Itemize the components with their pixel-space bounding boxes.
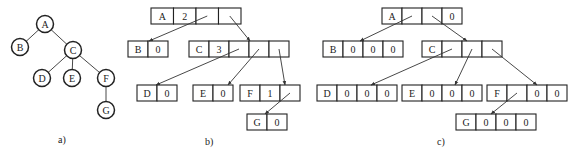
tree-node-label: A: [41, 19, 49, 30]
panel-b-variable-degree-list: A2B0C3D0E0F1G0 b): [128, 8, 300, 148]
node-data-label: G: [462, 117, 469, 128]
tree-edge-c-d: [48, 56, 66, 73]
record-g: G0: [247, 114, 287, 130]
field-value: 2: [182, 11, 187, 22]
tree-representation-figure: ABCDEFG a) A2B0C3D0E0F1G0 b) A0B000CD000…: [0, 0, 574, 153]
tree-node-f: F: [98, 70, 115, 87]
panel-c-fixed-degree-list: A0B000CD000E000F00G000 c): [317, 8, 567, 148]
field-value: 0: [430, 88, 435, 99]
field-value: 0: [555, 88, 560, 99]
node-data-label: C: [196, 44, 203, 55]
tree-edge-a-b: [26, 30, 38, 41]
field-value: 0: [156, 44, 161, 55]
pointer-c-to-f: [492, 49, 537, 85]
tree-node-label: C: [70, 45, 77, 56]
tree-node-label: D: [38, 73, 45, 84]
record-a: A0: [382, 8, 462, 24]
field-value: 0: [470, 88, 475, 99]
node-data-label: D: [143, 88, 150, 99]
field-value: 0: [345, 88, 350, 99]
node-data-label: B: [330, 44, 337, 55]
record-e: E0: [193, 85, 233, 101]
field-value: 0: [504, 117, 509, 128]
tree-node-label: E: [69, 73, 75, 84]
record-d: D0: [137, 85, 177, 101]
field-value: 0: [450, 88, 455, 99]
field-value: 0: [351, 44, 356, 55]
field-value: 0: [275, 117, 280, 128]
tree-edge-c-f: [79, 55, 99, 72]
node-data-label: G: [253, 117, 260, 128]
record-f: F00: [487, 85, 567, 101]
field-value: 0: [371, 44, 376, 55]
field-value: 0: [365, 88, 370, 99]
field-value: 0: [450, 11, 455, 22]
node-data-label: A: [388, 11, 396, 22]
field-value: 0: [221, 88, 226, 99]
panel-a-tree: ABCDEFG a): [12, 16, 115, 147]
tree-node-b: B: [12, 39, 29, 56]
field-value: 1: [268, 88, 273, 99]
record-f: F1: [240, 85, 300, 101]
tree-node-label: B: [17, 42, 24, 53]
record-a: A2: [151, 8, 241, 24]
field-value: 0: [391, 44, 396, 55]
record-e: E000: [402, 85, 482, 101]
tree-edge-a-c: [51, 30, 67, 44]
tree-node-c: C: [65, 42, 82, 59]
node-data-label: E: [409, 88, 415, 99]
node-data-label: A: [159, 11, 167, 22]
node-data-label: B: [135, 44, 142, 55]
record-b: B0: [128, 41, 168, 57]
field-value: 0: [524, 117, 529, 128]
panel-b-caption: b): [205, 136, 213, 148]
tree-node-g: G: [98, 102, 115, 119]
tree-node-d: D: [34, 70, 51, 87]
record-d: D000: [317, 85, 397, 101]
tree-node-label: F: [103, 73, 109, 84]
field-value: 0: [535, 88, 540, 99]
tree-node-label: G: [102, 105, 109, 116]
tree-node-a: A: [37, 16, 54, 33]
node-data-label: F: [247, 88, 253, 99]
node-data-label: E: [200, 88, 206, 99]
tree-node-e: E: [64, 70, 81, 87]
field-value: 0: [484, 117, 489, 128]
panel-c-caption: c): [437, 136, 445, 148]
panel-a-caption: a): [58, 134, 66, 146]
field-value: 3: [217, 44, 222, 55]
node-data-label: C: [429, 44, 436, 55]
record-b: B000: [323, 41, 403, 57]
record-c: C: [422, 41, 502, 57]
field-value: 0: [385, 88, 390, 99]
node-data-label: D: [323, 88, 330, 99]
node-data-label: F: [494, 88, 500, 99]
record-g: G000: [456, 114, 536, 130]
field-value: 0: [165, 88, 170, 99]
